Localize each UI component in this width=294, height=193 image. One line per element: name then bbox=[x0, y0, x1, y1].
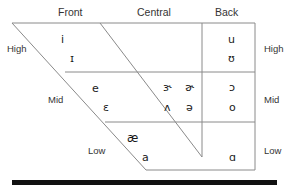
vowel-symbol-open-o: ɔ bbox=[229, 82, 235, 93]
front-diagonal-line bbox=[12, 23, 146, 170]
column-header-front: Front bbox=[58, 7, 83, 18]
diagonal-label-mid: Mid bbox=[48, 95, 63, 105]
row-label-right-high: High bbox=[264, 44, 284, 54]
vowel-symbol-script-a: ɑ bbox=[229, 152, 236, 163]
vowel-symbol-rhotic-schwa-stressed: ɝ bbox=[163, 82, 172, 93]
vowel-symbol-epsilon: ɛ bbox=[103, 102, 109, 113]
vowel-quadrilateral-lines bbox=[0, 0, 294, 193]
vowel-symbol-e: e bbox=[92, 83, 99, 94]
diagonal-label-low: Low bbox=[88, 146, 105, 156]
vowel-symbol-u: u bbox=[228, 34, 235, 45]
vowel-symbol-upsilon: ʊ bbox=[228, 53, 235, 64]
column-header-back: Back bbox=[215, 7, 238, 18]
row-label-right-mid: Mid bbox=[264, 95, 279, 105]
vowel-symbol-a: a bbox=[142, 152, 149, 163]
vowel-symbol-ash: æ bbox=[127, 133, 138, 145]
vowel-symbol-rhotic-schwa-unstressed: ɚ bbox=[185, 82, 194, 93]
vowel-symbol-o: o bbox=[229, 102, 236, 113]
vowel-symbol-schwa: ə bbox=[186, 102, 193, 113]
column-header-central: Central bbox=[137, 7, 171, 18]
vowel-symbol-small-capital-i: ɪ bbox=[70, 53, 74, 64]
diagonal-label-high: High bbox=[7, 44, 27, 54]
vowel-chart-figure: Front Central Back High Mid Low High Mid… bbox=[0, 0, 294, 193]
vowel-symbol-i: i bbox=[61, 34, 64, 45]
vowel-symbol-wedge: ʌ bbox=[164, 102, 171, 113]
row-label-right-low: Low bbox=[264, 146, 281, 156]
baseline-bar bbox=[12, 180, 277, 185]
